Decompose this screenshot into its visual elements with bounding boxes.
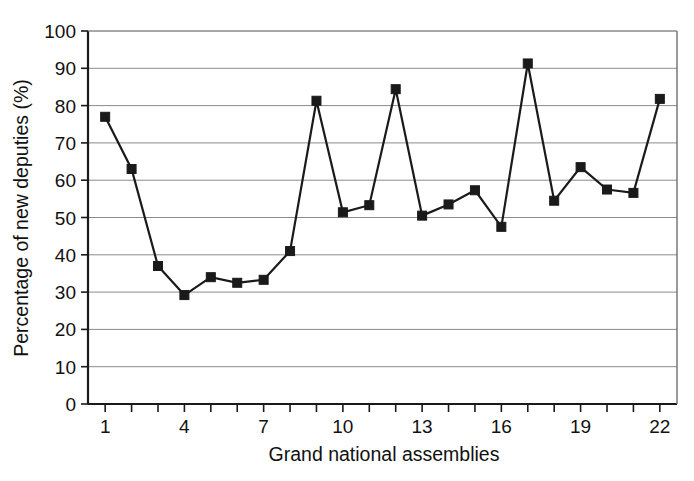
data-point-marker [101, 112, 110, 121]
x-tick-label: 4 [179, 416, 190, 437]
y-tick-label: 80 [55, 96, 76, 117]
y-tick-label: 60 [55, 170, 76, 191]
data-point-marker [444, 200, 453, 209]
data-point-marker [127, 165, 136, 174]
x-tick-label: 1 [100, 416, 111, 437]
data-point-marker [180, 291, 189, 300]
data-point-marker [603, 185, 612, 194]
x-tick-label: 16 [491, 416, 512, 437]
y-tick-label: 10 [55, 357, 76, 378]
y-tick-label: 40 [55, 245, 76, 266]
data-point-marker [286, 247, 295, 256]
y-tick-label: 30 [55, 282, 76, 303]
data-point-marker [153, 261, 162, 270]
y-tick-label: 0 [65, 394, 76, 415]
y-tick-label: 20 [55, 319, 76, 340]
y-tick-label: 50 [55, 208, 76, 229]
y-tick-label: 100 [44, 21, 76, 42]
x-tick-label: 10 [332, 416, 353, 437]
x-tick-label: 7 [258, 416, 269, 437]
x-tick-label: 19 [570, 416, 591, 437]
data-point-marker [312, 96, 321, 105]
data-point-marker [470, 186, 479, 195]
chart-canvas: 0102030405060708090100 1471013161922 Per… [0, 0, 694, 481]
data-point-marker [259, 275, 268, 284]
data-point-marker [576, 163, 585, 172]
data-point-marker [523, 59, 532, 68]
data-point-marker [206, 273, 215, 282]
data-point-marker [338, 208, 347, 217]
data-point-marker [655, 94, 664, 103]
data-point-marker [550, 196, 559, 205]
chart-background [0, 0, 694, 481]
data-point-marker [418, 211, 427, 220]
data-point-marker [629, 188, 638, 197]
data-point-marker [391, 85, 400, 94]
y-tick-label: 90 [55, 58, 76, 79]
y-tick-label: 70 [55, 133, 76, 154]
data-point-marker [365, 201, 374, 210]
data-point-marker [233, 278, 242, 287]
data-point-marker [497, 222, 506, 231]
line-chart: 0102030405060708090100 1471013161922 Per… [0, 0, 694, 481]
x-tick-label: 13 [412, 416, 433, 437]
x-tick-label: 22 [649, 416, 670, 437]
y-axis-label: Percentage of new deputies (%) [10, 79, 32, 357]
x-axis-label: Grand national assemblies [269, 443, 500, 465]
